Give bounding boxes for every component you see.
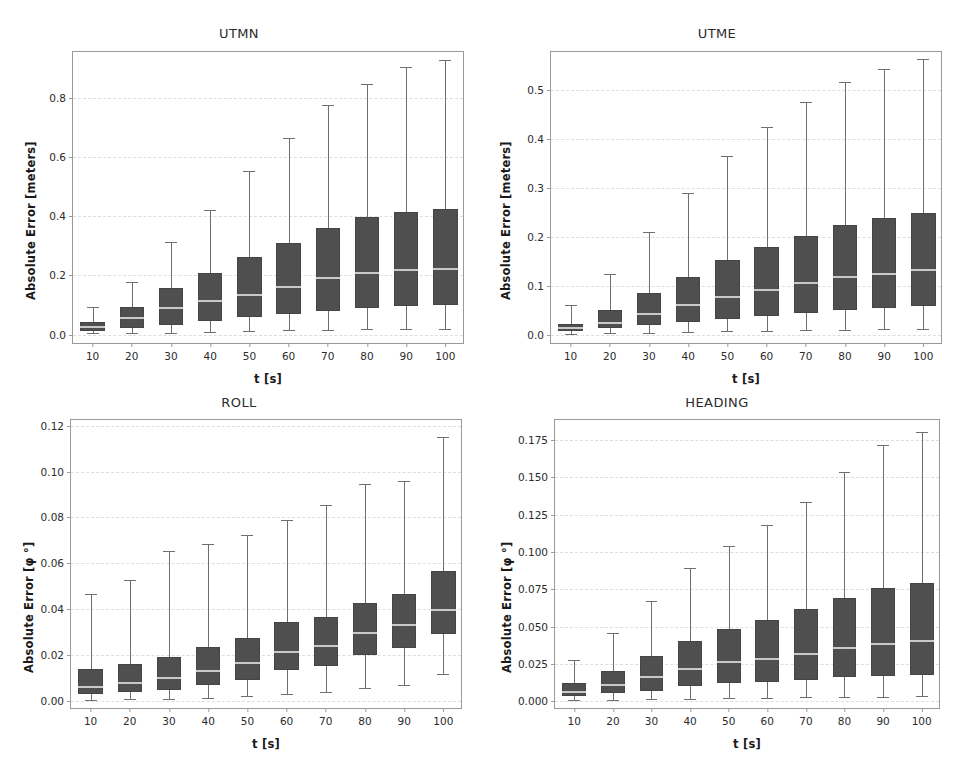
box-plot-50s [235,420,259,710]
lower-whisker [922,675,923,697]
y-axis-tick-label: 0.025 [518,658,555,670]
upper-whisker-cap [761,127,773,128]
lower-whisker [844,677,845,697]
upper-whisker-cap [204,210,216,211]
median-line [433,268,457,270]
x-axis-tick-label: 90 [400,350,413,362]
upper-whisker-cap [607,633,619,634]
upper-whisker [883,445,884,587]
median-line [911,269,935,271]
x-axis-tick-label: 100 [433,715,453,727]
upper-whisker [289,138,290,242]
median-line [833,276,857,278]
box-iqr [196,647,220,685]
x-axis-tick-label: 80 [360,350,373,362]
lower-whisker [289,314,290,331]
box-iqr [431,571,455,635]
box-iqr [872,218,896,308]
x-axis-tick-label: 70 [319,715,332,727]
lower-whisker [406,306,407,329]
y-axis-tick-label: 0.125 [518,509,555,521]
box-iqr [601,671,625,693]
box-plot-60s [274,420,298,710]
box-iqr [833,598,857,677]
upper-whisker-cap [359,484,371,485]
box-iqr [598,310,622,328]
box-plot-60s [276,52,300,345]
y-axis-tick-label: 0.075 [518,583,555,595]
lower-whisker-cap [684,699,696,700]
x-axis-tick-label: 70 [799,715,812,727]
x-axis-tick-label: 30 [642,350,655,362]
upper-whisker [326,505,327,617]
median-line [353,632,377,634]
upper-whisker-cap [643,232,655,233]
box-plot-30s [157,420,181,710]
median-line [431,609,455,611]
median-line [715,296,739,298]
box-plot-90s [392,420,416,710]
upper-whisker-cap [85,594,97,595]
lower-whisker [443,634,444,674]
y-axis-tick-label: 0.06 [41,557,71,569]
lower-whisker [171,325,172,333]
lower-whisker [326,666,327,692]
median-line [237,294,261,296]
lower-whisker [690,686,691,698]
y-axis-tick-label: 0.4 [527,133,551,145]
upper-whisker [443,437,444,570]
box-iqr [640,656,664,691]
upper-whisker-cap [839,82,851,83]
median-line [562,691,586,693]
upper-whisker-cap [439,60,451,61]
y-axis-tick-label: 0.6 [49,151,73,163]
lower-whisker-cap [643,333,655,334]
x-axis-tick-label: 100 [913,350,933,362]
lower-whisker [367,308,368,329]
lower-whisker-cap [165,333,177,334]
box-plot-20s [120,52,144,345]
upper-whisker-cap [87,307,99,308]
upper-whisker-cap [437,437,449,438]
lower-whisker-cap [283,330,295,331]
y-axis-tick-label: 0.000 [518,695,555,707]
y-axis-tick-label: 0.3 [527,182,551,194]
x-axis-tick-label: 50 [722,715,735,727]
box-plot-70s [316,52,340,345]
lower-whisker-cap [721,331,733,332]
box-plot-80s [833,420,857,710]
y-axis-label-utmn: Absolute Error [meters] [24,141,38,300]
x-axis-tick-label: 50 [721,350,734,362]
median-line [678,668,702,670]
lower-whisker [365,655,366,687]
lower-whisker [883,676,884,696]
median-line [276,286,300,288]
x-axis-tick-label: 70 [321,350,334,362]
upper-whisker [247,535,248,639]
lower-whisker-cap [604,333,616,334]
lower-whisker-cap [361,329,373,330]
upper-whisker-cap [800,502,812,503]
panel-utmn: UTMN Absolute Error [meters] 0.00.20.40.… [0,0,478,388]
x-axis-tick-label: 40 [204,350,217,362]
plot-area-utme: 0.00.10.20.30.40.5102030405060708090100 [550,51,942,344]
median-line [314,645,338,647]
box-plot-60s [754,52,778,345]
lower-whisker-cap [124,699,136,700]
box-iqr [276,243,300,314]
lower-whisker-cap [565,334,577,335]
box-iqr [157,657,181,690]
box-iqr [562,683,586,696]
upper-whisker-cap [878,69,890,70]
median-line [235,662,259,664]
upper-whisker-cap [761,525,773,526]
upper-whisker [169,551,170,657]
box-plot-90s [871,420,895,710]
lower-whisker [445,305,446,329]
x-axis-tick-label: 90 [878,350,891,362]
y-axis-tick-label: 0.5 [527,84,551,96]
median-line [394,269,418,271]
box-plot-50s [717,420,741,710]
y-axis-tick-label: 0.10 [41,466,71,478]
box-iqr [314,617,338,666]
